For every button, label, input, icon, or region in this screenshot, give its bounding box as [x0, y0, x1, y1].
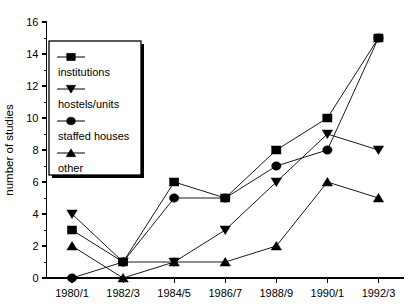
data-point-staffed-houses	[374, 34, 383, 42]
y-tick-label: 12	[26, 80, 38, 92]
legend-label: other	[58, 162, 83, 174]
legend-label: hostels/units	[58, 98, 120, 110]
x-tick-label: 1984/5	[157, 287, 191, 299]
data-point-other	[322, 177, 332, 186]
data-point-other	[271, 241, 281, 250]
data-point-other	[373, 193, 383, 202]
y-tick-label: 4	[32, 208, 38, 220]
y-tick-label: 0	[32, 272, 38, 284]
x-tick-label: 1982/3	[106, 287, 140, 299]
y-tick-label: 2	[32, 240, 38, 252]
x-tick-label: 1990/1	[311, 287, 345, 299]
data-point-institutions	[323, 114, 332, 122]
data-point-institutions	[170, 178, 179, 186]
data-point-staffed-houses	[67, 274, 76, 282]
data-point-institutions	[272, 146, 281, 154]
y-tick-label: 8	[32, 144, 38, 156]
data-point-staffed-houses	[272, 162, 281, 170]
x-tick-label: 1988/9	[259, 287, 293, 299]
y-tick-label: 10	[26, 112, 38, 124]
data-point-staffed-houses	[323, 146, 332, 154]
data-point-hostels-units	[373, 146, 383, 155]
data-point-staffed-houses	[169, 194, 178, 202]
data-point-staffed-houses	[118, 258, 127, 266]
y-tick-label: 16	[26, 16, 38, 28]
y-tick-label: 6	[32, 176, 38, 188]
data-point-institutions	[67, 226, 76, 234]
y-axis-title: number of studies	[3, 104, 15, 196]
data-point-staffed-houses	[221, 194, 230, 202]
x-tick-label: 1986/7	[208, 287, 242, 299]
legend-marker-circle	[67, 117, 76, 125]
legend-label: institutions	[58, 66, 110, 78]
data-point-hostels-units	[220, 226, 230, 235]
legend-label: staffed houses	[58, 130, 130, 142]
data-point-other	[67, 241, 77, 250]
chart-container: 02468101214161980/11982/31984/51986/7198…	[0, 0, 412, 306]
legend-marker-square	[67, 53, 75, 60]
y-tick-label: 14	[26, 48, 38, 60]
line-chart: 02468101214161980/11982/31984/51986/7198…	[0, 0, 412, 306]
x-tick-label: 1992/3	[362, 287, 396, 299]
x-tick-label: 1980/1	[55, 287, 89, 299]
